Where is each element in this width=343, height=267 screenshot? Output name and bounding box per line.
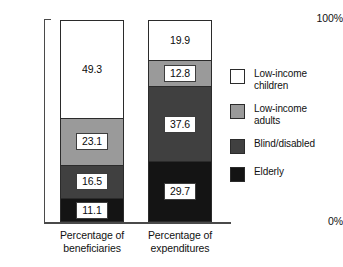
- legend-item[interactable]: Low-income adults: [230, 103, 343, 126]
- bar-segment-low-income-children[interactable]: 49.3: [61, 21, 123, 118]
- bar-segment-blind-disabled[interactable]: 37.6: [149, 86, 211, 161]
- legend-swatch-icon: [230, 139, 245, 154]
- y-axis-label-100: 100%: [301, 13, 343, 24]
- bar-segment-value: 11.1: [76, 202, 107, 219]
- bar-segment-low-income-adults[interactable]: 12.8: [149, 60, 211, 86]
- bar-segment-elderly[interactable]: 29.7: [149, 161, 211, 221]
- bar-beneficiaries[interactable]: 49.323.116.511.1: [60, 20, 124, 222]
- legend-item-label: Low-income children: [254, 68, 307, 91]
- bar-segment-blind-disabled[interactable]: 16.5: [61, 165, 123, 199]
- bar-expenditures[interactable]: 19.912.837.629.7: [148, 20, 212, 222]
- bar-segment-value: 12.8: [164, 65, 196, 82]
- y-axis-tick-top: [44, 19, 51, 20]
- x-axis-label-expenditures: Percentage of expenditures: [128, 229, 232, 254]
- bar-segment-low-income-adults[interactable]: 23.1: [61, 118, 123, 165]
- legend-swatch-icon: [230, 69, 245, 84]
- x-axis-baseline: [44, 222, 231, 224]
- bar-segment-value: 29.7: [164, 183, 196, 200]
- bar-segment-value: 49.3: [76, 61, 108, 78]
- legend-swatch-icon: [230, 167, 245, 182]
- legend-item[interactable]: Low-income children: [230, 68, 343, 91]
- y-axis-line: [44, 19, 45, 223]
- legend-item[interactable]: Blind/disabled: [230, 138, 343, 154]
- legend-item-label: Blind/disabled: [254, 138, 315, 150]
- bar-segment-value: 16.5: [76, 173, 108, 190]
- bar-segment-value: 23.1: [76, 133, 108, 150]
- y-axis-label-0: 0%: [301, 216, 343, 227]
- bar-segment-value: 19.9: [164, 32, 196, 49]
- bar-segment-low-income-children[interactable]: 19.9: [149, 21, 211, 60]
- legend-item[interactable]: Elderly: [230, 166, 343, 182]
- legend-item-label: Elderly: [254, 166, 284, 178]
- legend-swatch-icon: [230, 104, 245, 119]
- stacked-bar-chart: 100% 0% 49.323.116.511.1 19.912.837.629.…: [0, 0, 343, 267]
- bar-segment-elderly[interactable]: 11.1: [61, 198, 123, 221]
- legend-item-label: Low-income adults: [254, 103, 307, 126]
- bar-segment-value: 37.6: [164, 116, 196, 133]
- legend: Low-income childrenLow-income adultsBlin…: [230, 68, 343, 194]
